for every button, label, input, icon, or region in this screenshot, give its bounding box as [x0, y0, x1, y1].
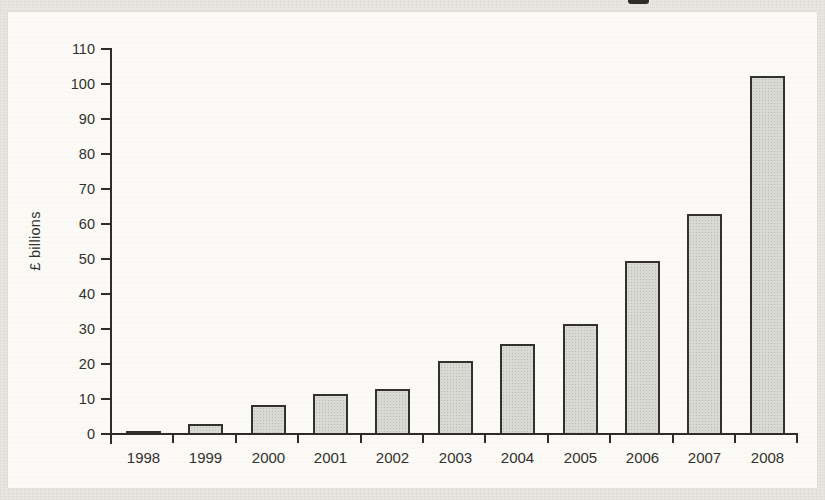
y-tick-label: 40	[39, 286, 95, 302]
y-tick-label: 50	[39, 251, 95, 267]
x-tick	[297, 433, 299, 443]
y-tick-label: 70	[39, 181, 95, 197]
y-tick	[101, 258, 110, 260]
x-tick-label: 2003	[424, 450, 487, 466]
x-tick-label: 2004	[486, 450, 549, 466]
bar-chart: £ billions 01020304050607080901001101998…	[0, 0, 825, 500]
x-tick	[235, 433, 237, 443]
bar-2007	[687, 214, 722, 433]
y-axis-line	[110, 48, 112, 444]
y-tick-label: 110	[39, 41, 95, 57]
y-tick	[101, 48, 110, 50]
x-tick	[422, 433, 424, 443]
y-tick-label: 10	[39, 391, 95, 407]
bar-2006	[625, 261, 660, 433]
bar-2005	[563, 324, 598, 433]
x-tick-label: 1998	[112, 450, 175, 466]
y-tick	[101, 223, 110, 225]
y-tick	[101, 83, 110, 85]
bar-2000	[251, 405, 286, 433]
y-tick	[101, 293, 110, 295]
bar-2002	[375, 389, 410, 433]
x-tick	[609, 433, 611, 443]
x-tick	[672, 433, 674, 443]
y-tick	[101, 188, 110, 190]
y-tick-label: 100	[39, 76, 95, 92]
y-tick-label: 80	[39, 146, 95, 162]
x-tick	[796, 433, 798, 443]
bar-2004	[500, 344, 535, 433]
x-tick	[172, 433, 174, 443]
chart-panel: £ billions 01020304050607080901001101998…	[8, 12, 817, 488]
y-tick	[101, 118, 110, 120]
x-tick	[484, 433, 486, 443]
y-tick-label: 90	[39, 111, 95, 127]
bar-1999	[188, 424, 223, 433]
x-tick	[110, 433, 112, 443]
y-tick	[101, 328, 110, 330]
y-tick	[101, 153, 110, 155]
x-axis-line	[110, 433, 798, 435]
x-tick-label: 2001	[299, 450, 362, 466]
y-tick-label: 0	[39, 426, 95, 442]
bar-2003	[438, 361, 473, 433]
y-tick-label: 60	[39, 216, 95, 232]
x-tick-label: 2000	[237, 450, 300, 466]
x-tick-label: 2005	[549, 450, 612, 466]
x-tick-label: 2002	[361, 450, 424, 466]
y-tick	[101, 433, 110, 435]
x-tick	[547, 433, 549, 443]
bar-1998	[126, 431, 161, 433]
x-tick-label: 2006	[611, 450, 674, 466]
x-tick-label: 1999	[174, 450, 237, 466]
y-tick	[101, 398, 110, 400]
bar-2001	[313, 394, 348, 433]
x-tick	[360, 433, 362, 443]
x-tick	[734, 433, 736, 443]
y-tick	[101, 363, 110, 365]
y-tick-label: 30	[39, 321, 95, 337]
bar-2008	[750, 76, 785, 433]
x-tick-label: 2008	[736, 450, 799, 466]
x-tick-label: 2007	[673, 450, 736, 466]
y-tick-label: 20	[39, 356, 95, 372]
